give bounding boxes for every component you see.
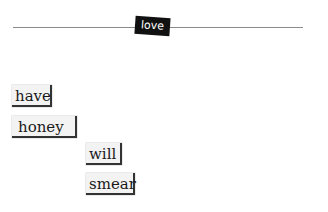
word-tile-love[interactable]: love bbox=[134, 16, 170, 36]
word-tile-smear[interactable]: smear bbox=[86, 173, 135, 195]
word-tile-will[interactable]: will bbox=[86, 143, 122, 165]
word-tile-honey[interactable]: honey bbox=[12, 116, 77, 138]
word-tile-have[interactable]: have bbox=[12, 85, 52, 107]
